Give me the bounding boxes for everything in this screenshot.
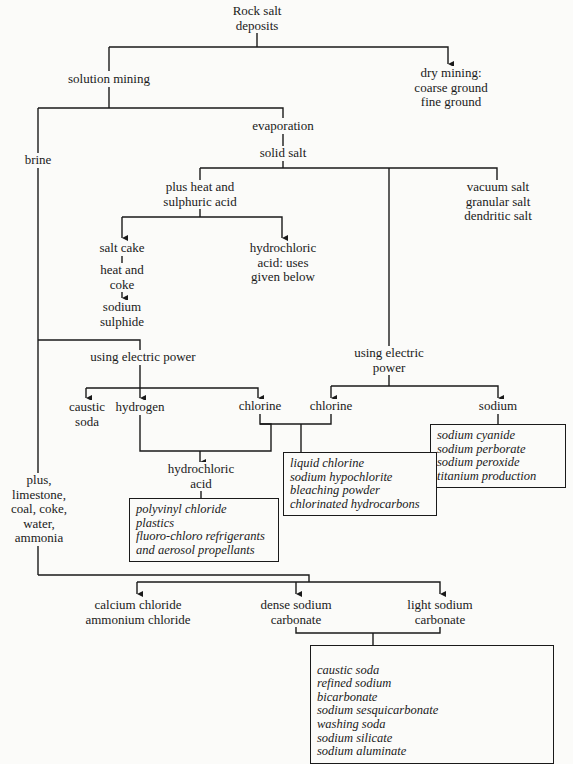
node-chlorine-right: chlorine xyxy=(306,399,356,414)
node-calcium-chloride: calcium chloride ammonium chloride xyxy=(82,598,194,627)
node-using-electric-power-right: using electric power xyxy=(347,346,431,375)
box-hcl-products: polyvinyl chloride plastics fluoro-chlor… xyxy=(129,498,279,562)
node-salt-cake: salt cake xyxy=(97,241,147,256)
node-plus-limestone: plus, limestone, coal, coke, water, ammo… xyxy=(6,473,72,546)
node-sodium-sulphide: sodium sulphide xyxy=(97,300,147,329)
node-using-electric-power-left: using electric power xyxy=(88,350,198,365)
node-plus-heat-sulphuric-acid: plus heat and sulphuric acid xyxy=(160,180,240,209)
node-caustic-soda: caustic soda xyxy=(68,400,106,429)
node-vacuum-salt: vacuum salt granular salt dendritic salt xyxy=(456,180,540,224)
carbonate-uses-right: sodium silicate sodium aluminate xyxy=(317,732,406,759)
node-solution-mining: solution mining xyxy=(64,72,154,87)
node-rock-salt-deposits: Rock salt deposits xyxy=(222,4,292,33)
node-dry-mining: dry mining: coarse ground fine ground xyxy=(408,66,494,110)
node-chlorine-left: chlorine xyxy=(235,399,285,414)
node-hydrochloric-acid-uses: hydrochloric acid: uses given below xyxy=(248,241,318,285)
node-dense-sodium-carbonate: dense sodium carbonate xyxy=(255,598,337,627)
node-sodium: sodium xyxy=(476,399,520,414)
box-sodium-uses: sodium cyanide sodium perborate sodium p… xyxy=(430,424,566,488)
box-carbonate-uses: caustic soda refined sodium bicarbonate … xyxy=(310,645,554,764)
node-solid-salt: solid salt xyxy=(253,146,313,161)
carbonate-uses-left: caustic soda refined sodium bicarbonate … xyxy=(317,664,459,732)
node-brine: brine xyxy=(20,153,56,168)
box-chlorine-uses: liquid chlorine sodium hypochlorite blea… xyxy=(283,452,437,516)
node-hydrogen: hydrogen xyxy=(114,400,166,415)
node-heat-and-coke: heat and coke xyxy=(97,263,147,292)
node-hydrochloric-acid: hydrochloric acid xyxy=(162,462,240,491)
node-light-sodium-carbonate: light sodium carbonate xyxy=(401,598,479,627)
node-evaporation: evaporation xyxy=(248,119,318,134)
